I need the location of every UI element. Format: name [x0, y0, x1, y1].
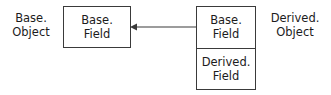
label-base-object: Base. Object — [2, 11, 60, 39]
base-field-box: Base. Field — [63, 6, 131, 48]
derived-object-box-cell-base-field: Base. Field — [197, 7, 255, 48]
derived-object-box-cell-derived-field: Derived. Field — [197, 48, 255, 90]
base-field-box-label: Base. Field — [64, 13, 130, 41]
diagram-canvas: Base. Object Base. Field Base. Field Der… — [0, 0, 331, 95]
label-derived-object: Derived. Object — [260, 11, 330, 39]
base-field-cell-label: Base. Field — [210, 13, 242, 41]
arrowhead-icon — [130, 24, 137, 31]
derived-object-box: Base. Field Derived. Field — [196, 6, 256, 90]
derived-field-cell-label: Derived. Field — [202, 55, 251, 83]
